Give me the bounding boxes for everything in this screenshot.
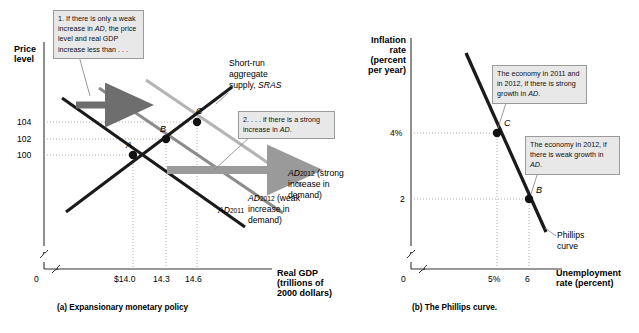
point-c-dot <box>193 118 201 126</box>
point-b-dot-b <box>525 195 533 203</box>
point-a-dot <box>129 151 137 159</box>
ad-2011-label: AD2011 <box>218 205 244 216</box>
panel-a-origin-label: 0 <box>34 274 39 284</box>
point-b-label-b: B <box>536 185 542 195</box>
figure-container: Price level 104 102 100 0 $14.0 14.3 14.… <box>0 0 639 333</box>
panel-a-gridlines <box>44 122 197 269</box>
panel-b-xtick-5: 5% <box>488 274 500 284</box>
panel-b-ytick-4: 4% <box>390 128 402 138</box>
panel-a-ytick-104: 104 <box>17 117 31 127</box>
callout-2: 2. . . . if there is a strong increase i… <box>238 111 335 139</box>
panel-b-origin-label: 0 <box>401 274 406 284</box>
point-c-label-b: C <box>504 118 511 128</box>
point-c-dot-b <box>493 129 501 137</box>
panel-a-xtick-14-6: 14.6 <box>185 274 202 284</box>
panel-a-leader-lines <box>79 56 252 170</box>
point-a-label: A <box>126 140 132 150</box>
panel-b-xtick-6: 6 <box>525 274 530 284</box>
panel-a-x-axis-label: Real GDP (trillions of 2000 dollars) <box>277 268 332 298</box>
callout-4: The economy in 2012, if there is weak gr… <box>525 136 620 175</box>
callout-3: The economy in 2011 and in 2012, if ther… <box>492 65 587 104</box>
panel-a-xtick-14-3: 14.3 <box>153 274 170 284</box>
point-b-dot <box>162 135 170 143</box>
panel-a-caption: (a) Expansionary monetary policy <box>57 303 188 312</box>
sras-abbrev: SRAS <box>258 80 281 90</box>
ad-2012-strong-label: AD2012 (strong increase in demand) <box>288 168 346 202</box>
panel-b-ytick-2: 2 <box>400 194 405 204</box>
panel-a-ytick-100: 100 <box>17 150 31 160</box>
panel-b-y-axis-label: Inflation rate (percent per year) <box>340 35 406 75</box>
point-c-label: C <box>196 106 203 116</box>
sras-label: Short-run aggregate supply, SRAS <box>229 58 281 92</box>
point-b-label: B <box>160 124 166 134</box>
callout-1: 1. If there is only a weak increase in A… <box>53 10 144 59</box>
panel-a-ytick-102: 102 <box>17 134 31 144</box>
panel-a-xtick-14-0: $14.0 <box>114 274 136 284</box>
panel-a-y-axis-label: Price level <box>14 44 36 64</box>
panel-b-caption: (b) The Phillips curve. <box>412 303 497 312</box>
panel-b-x-axis-label: Unemployment rate (percent) <box>556 268 621 288</box>
phillips-curve-label: Phillips curve <box>557 230 584 252</box>
